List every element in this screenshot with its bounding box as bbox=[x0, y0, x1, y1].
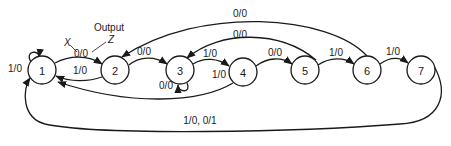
state-5: 5 bbox=[291, 56, 319, 84]
states: 1 2 3 4 5 6 7 bbox=[28, 56, 435, 86]
edge-2-1 bbox=[56, 76, 102, 81]
edge-label-3-4: 1/0 bbox=[203, 48, 217, 59]
edge-label-1-2: 0/0 bbox=[74, 48, 88, 59]
edge-label-2-3: 0/0 bbox=[137, 46, 151, 57]
edge-label-6-7: 1/0 bbox=[386, 46, 400, 57]
edge-3-4 bbox=[193, 59, 229, 66]
edge-2-3 bbox=[129, 58, 167, 65]
state-1-label: 1 bbox=[39, 65, 45, 77]
output-symbol-label: Z bbox=[107, 34, 115, 45]
edge-label-4-5: 0/0 bbox=[268, 47, 282, 58]
state-6-label: 6 bbox=[364, 65, 370, 77]
input-symbol-label: X bbox=[63, 37, 71, 48]
state-3-label: 3 bbox=[177, 65, 183, 77]
state-2-label: 2 bbox=[112, 65, 118, 77]
state-diagram: Output X Z 1/0 0/0 1/0 0/0 0/0 1/0 1/0 0… bbox=[0, 0, 451, 146]
edge-label-5-6: 1/0 bbox=[329, 47, 343, 58]
output-annotation: Output X Z bbox=[63, 22, 124, 52]
edge-label-2-1: 1/0 bbox=[73, 65, 87, 76]
output-leader-line bbox=[92, 42, 106, 52]
edge-4-5 bbox=[256, 59, 292, 66]
edge-label-7-1: 1/0, 0/1 bbox=[183, 115, 217, 126]
state-1: 1 bbox=[28, 56, 56, 84]
state-7-label: 7 bbox=[418, 65, 424, 77]
edge-4-1 bbox=[58, 82, 233, 99]
state-6: 6 bbox=[353, 56, 381, 84]
state-3: 3 bbox=[166, 56, 194, 84]
edge-label-4-1: 1/0 bbox=[212, 69, 226, 80]
edge-label-1-1: 1/0 bbox=[8, 63, 22, 74]
state-4-label: 4 bbox=[240, 67, 246, 79]
output-label: Output bbox=[94, 22, 124, 33]
edge-5-6 bbox=[318, 59, 354, 65]
state-4: 4 bbox=[229, 58, 257, 86]
edge-label-5-3: 0/0 bbox=[233, 29, 247, 40]
edge-6-7 bbox=[380, 59, 408, 64]
state-7: 7 bbox=[407, 56, 435, 84]
state-5-label: 5 bbox=[302, 65, 308, 77]
edge-label-6-2: 0/0 bbox=[233, 8, 247, 19]
state-2: 2 bbox=[101, 56, 129, 84]
